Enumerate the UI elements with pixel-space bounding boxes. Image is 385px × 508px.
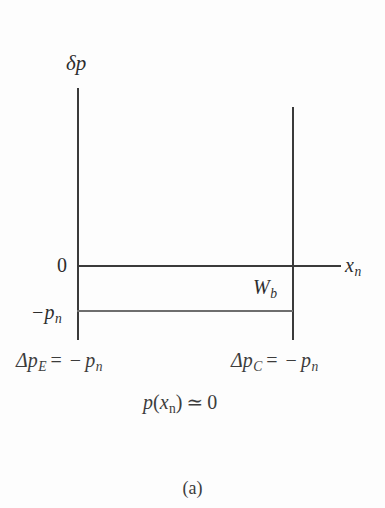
emitter-eq-rhs-sub: n	[95, 359, 102, 374]
pxn-func: p	[143, 391, 153, 413]
origin-tick-label: 0	[57, 255, 67, 275]
origin-tick-label-text: 0	[57, 254, 67, 276]
y-axis-label-text: δp	[66, 51, 86, 75]
minus-pn-label-base: −p	[31, 301, 55, 323]
figure-caption: (a)	[0, 478, 385, 499]
y-axis-label: δp	[66, 53, 86, 74]
emitter-eq-equals: =	[47, 349, 66, 371]
collector-boundary-equation: ΔpC=−pn	[231, 350, 318, 373]
collector-eq-lhs-base: Δp	[231, 349, 253, 371]
pxn-close-paren: )	[176, 391, 183, 413]
x-axis-line	[77, 265, 341, 267]
emitter-eq-rhs-base: p	[85, 349, 95, 371]
x-axis-label-sub: n	[354, 264, 361, 279]
emitter-eq-lhs-sub: E	[38, 359, 47, 374]
collector-eq-lhs-sub: C	[253, 359, 263, 374]
figure-panel-a: δp 0 xn −pn Wb ΔpE=−pn ΔpC=−pn p(xn)≃0 (…	[0, 0, 385, 508]
pxn-arg-base: x	[160, 391, 169, 413]
minus-pn-level-line	[77, 310, 293, 312]
minus-pn-tick-label: −pn	[31, 302, 62, 325]
collector-eq-rhs-sub: n	[311, 359, 318, 374]
emitter-boundary-equation: ΔpE=−pn	[16, 350, 102, 373]
collector-eq-minus: −	[282, 349, 301, 371]
pxn-arg-sub: n	[169, 401, 176, 416]
x-axis-label-base: x	[345, 254, 354, 276]
emitter-eq-lhs-base: Δp	[16, 349, 38, 371]
base-width-label: Wb	[253, 277, 277, 300]
base-width-label-base: W	[253, 276, 270, 298]
pxn-value: 0	[207, 391, 217, 413]
emitter-eq-minus: −	[66, 349, 85, 371]
collector-eq-equals: =	[262, 349, 281, 371]
collector-eq-rhs-base: p	[301, 349, 311, 371]
pxn-relation: ≃	[183, 391, 208, 413]
base-width-label-sub: b	[270, 286, 277, 301]
carrier-concentration-equation: p(xn)≃0	[143, 392, 217, 415]
y-axis-line	[77, 88, 79, 340]
collector-edge-line	[292, 107, 294, 340]
minus-pn-label-sub: n	[55, 311, 62, 326]
pxn-open-paren: (	[153, 391, 160, 413]
x-axis-label: xn	[345, 255, 361, 278]
